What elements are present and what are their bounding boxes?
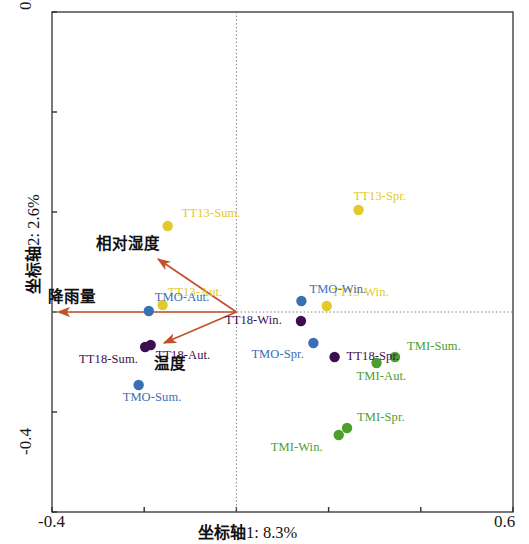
point-label: TMI-Spr. — [357, 410, 405, 425]
ordination-chart: TT13-Sum.TT13-Aut.TT13-Spr.TT13-Win.TT18… — [0, 0, 529, 544]
point-label: TT18-Sum. — [79, 352, 138, 367]
data-point — [296, 316, 306, 326]
origin-crosshair — [52, 12, 513, 512]
data-point — [334, 430, 344, 440]
point-label: TMI-Sum. — [407, 339, 461, 354]
data-point — [342, 423, 352, 433]
point-label: TT18-Win. — [225, 313, 282, 328]
x-axis-title-num: 1: 8.3% — [246, 523, 297, 542]
y-axis-max-tick-label: 0.6 — [16, 0, 36, 10]
point-label: TMO-Sum. — [123, 390, 182, 405]
y-axis-title-num: 2: 2.6% — [24, 194, 43, 245]
plot-canvas — [0, 0, 529, 544]
environmental-vector-label: 温度 — [154, 351, 186, 373]
data-point — [322, 301, 332, 311]
data-point — [308, 338, 318, 348]
point-label: TT13-Spr. — [354, 189, 407, 204]
data-point — [133, 380, 143, 390]
point-label: TMI-Aut. — [357, 369, 407, 384]
point-label: TT18-Spr. — [347, 349, 400, 364]
environmental-vector-label: 降雨量 — [48, 284, 96, 306]
point-label: TT13-Sum. — [182, 206, 241, 221]
y-axis-title: 坐标轴2: 2.6% — [20, 134, 44, 354]
y-axis-title-cjk: 坐标轴 — [24, 246, 43, 294]
point-label: TMO-Spr. — [251, 347, 304, 362]
x-axis-title-cjk: 坐标轴 — [198, 523, 246, 542]
environmental-vector-label: 相对湿度 — [96, 231, 160, 253]
point-label: TMO-Win. — [309, 282, 366, 297]
data-point — [145, 340, 155, 350]
data-point — [296, 296, 306, 306]
x-axis-max-tick-label: 0.6 — [494, 512, 515, 532]
plot-frame — [52, 12, 513, 512]
axis-ticks — [52, 12, 513, 512]
data-point — [353, 205, 363, 215]
x-axis-title: 坐标轴1: 8.3% — [198, 519, 297, 543]
y-axis-min-tick-label: -0.4 — [16, 428, 36, 455]
x-axis-min-tick-label: -0.4 — [38, 512, 65, 532]
data-point — [144, 306, 154, 316]
point-label: TMO-Aut. — [155, 290, 210, 305]
data-point — [329, 352, 339, 362]
data-point — [163, 221, 173, 231]
point-label: TMI-Win. — [271, 440, 323, 455]
